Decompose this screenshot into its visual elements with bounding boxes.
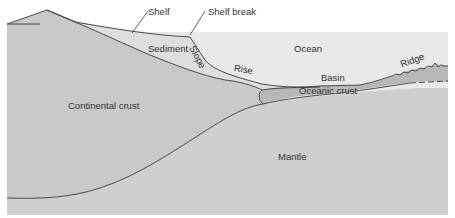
label-shelf: Shelf	[148, 7, 170, 17]
label-shelf-break: Shelf break	[208, 7, 256, 17]
label-sediment: Sediment	[148, 44, 188, 54]
shelf-leader	[132, 11, 148, 33]
label-mantle: Mantle	[278, 152, 307, 162]
shelf-break-leader	[190, 11, 205, 35]
label-oceanic-crust: Oceanic crust	[299, 86, 357, 96]
label-ocean: Ocean	[294, 44, 322, 54]
label-continental-crust: Continental crust	[68, 101, 139, 111]
label-basin: Basin	[321, 73, 345, 83]
